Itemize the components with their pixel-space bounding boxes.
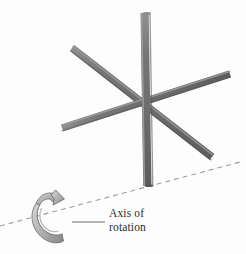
coil-ribbon-front [32, 204, 62, 243]
bar-vertical [142, 12, 154, 187]
crossed-bars-group [62, 12, 231, 187]
coil-arrowhead [51, 190, 65, 205]
rotation-coil-arrow [32, 190, 65, 243]
rotation-figure: Axis of rotation [0, 0, 246, 254]
axis-label-line-2: rotation [109, 220, 146, 234]
axis-of-rotation-label: Axis of rotation [109, 206, 146, 234]
axis-label-line-1: Axis of [109, 206, 146, 220]
